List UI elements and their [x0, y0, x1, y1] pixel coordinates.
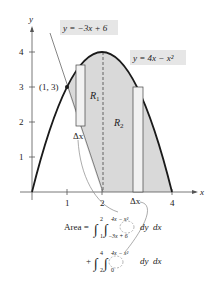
svg-text:2: 2 [100, 267, 103, 273]
x-tick-2: 2 [100, 198, 105, 208]
formula-line-2: + ∫ 4 2 ∫ 4x − x² 0 dy dx [86, 250, 162, 273]
svg-text:dy: dy [140, 222, 149, 232]
svg-text:+: + [86, 256, 91, 266]
region-r1-label: R1 [89, 90, 100, 103]
svg-text:∫: ∫ [93, 256, 99, 272]
svg-text:2: 2 [100, 216, 103, 222]
region-r2-label: R2 [113, 117, 124, 130]
svg-text:1: 1 [100, 233, 103, 239]
delta-x-right: Δx [130, 196, 141, 206]
line-label: y = −3x + 6 [62, 23, 108, 33]
formula-line-1: Area = ∫ 2 1 ∫ 4x − x² −3x + 6 dy dx [64, 216, 162, 239]
svg-text:dy: dy [140, 256, 149, 266]
svg-text:4x − x²: 4x − x² [111, 216, 128, 222]
y-tick-2: 2 [19, 117, 24, 127]
svg-text:4x − x²: 4x − x² [111, 250, 128, 256]
svg-text:Area =: Area = [64, 222, 89, 232]
svg-text:−3x + 6: −3x + 6 [108, 233, 128, 239]
parabola-label: y = 4x − x² [132, 53, 174, 63]
y-axis-label: y [28, 14, 33, 24]
x-axis-label: x [199, 187, 204, 197]
svg-text:∫: ∫ [103, 256, 109, 272]
x-tick-1: 1 [65, 198, 70, 208]
x-tick-4: 4 [170, 198, 175, 208]
svg-text:0: 0 [111, 267, 114, 273]
point-label: (1, 3) [39, 82, 59, 92]
svg-text:dx: dx [153, 222, 162, 232]
y-tick-3: 3 [19, 82, 24, 92]
delta-x-left: Δx [73, 131, 84, 141]
y-tick-1: 1 [19, 152, 24, 162]
svg-text:∫: ∫ [93, 222, 99, 238]
text-layer: y x 1 2 4 1 2 3 4 y = −3x + 6 y = 4x − x… [0, 0, 219, 284]
y-tick-4: 4 [19, 47, 24, 57]
svg-text:dx: dx [153, 256, 162, 266]
svg-text:4: 4 [100, 250, 103, 256]
